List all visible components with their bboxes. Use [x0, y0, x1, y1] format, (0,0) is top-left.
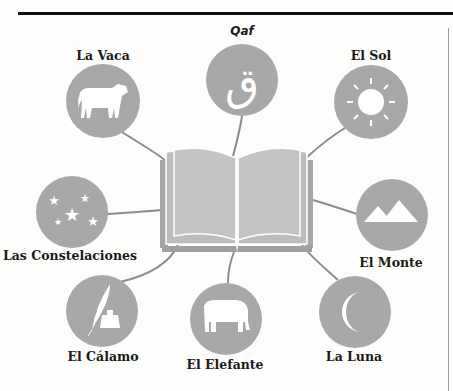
- svg-text:★: ★: [64, 204, 80, 225]
- arabic-letter-qaf-icon: ق: [225, 59, 259, 110]
- label-constelaciones: Las Constelaciones: [3, 248, 137, 263]
- label-sol: El Sol: [351, 48, 392, 63]
- node-monte: [356, 179, 428, 251]
- label-luna: La Luna: [326, 349, 382, 364]
- label-vaca: La Vaca: [76, 48, 130, 63]
- svg-text:★: ★: [54, 217, 62, 227]
- label-monte: El Monte: [359, 255, 423, 270]
- svg-text:★: ★: [80, 192, 90, 205]
- node-constelaciones: ★ ★ ★ ★ ★: [36, 176, 108, 248]
- svg-text:★: ★: [48, 193, 60, 208]
- node-elefante: [190, 283, 262, 355]
- label-calamo: El Cálamo: [67, 349, 138, 364]
- label-qaf: Qaf: [230, 24, 254, 38]
- node-qaf: ق: [206, 44, 278, 116]
- node-sol: [334, 65, 408, 139]
- node-vaca: [66, 64, 140, 138]
- node-calamo: [66, 275, 138, 347]
- label-elefante: El Elefante: [186, 357, 263, 372]
- node-luna: [319, 276, 391, 348]
- open-book-icon: [160, 148, 313, 252]
- svg-text:★: ★: [87, 214, 99, 229]
